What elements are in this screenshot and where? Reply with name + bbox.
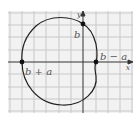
label-b: b (74, 29, 80, 40)
point-b-minus-a (94, 60, 99, 65)
label-b-minus-a: b − a (100, 51, 127, 62)
point-b (81, 22, 86, 27)
label-b-plus-a: b + a (25, 66, 52, 77)
point-b-plus-a (20, 60, 25, 65)
limacon-diagram: x y b + a b − a b (0, 0, 137, 115)
x-axis-label: x (126, 64, 130, 72)
